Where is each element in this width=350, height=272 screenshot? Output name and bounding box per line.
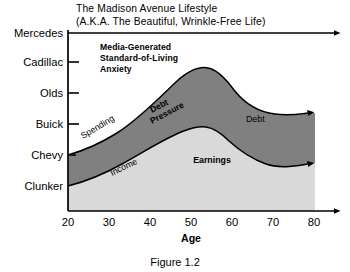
x-axis-title: Age <box>181 232 201 244</box>
y-axis-label-mercedes: Mercedes <box>14 27 64 39</box>
x-axis-label-60: 60 <box>226 216 238 228</box>
figure-caption: Figure 1.2 <box>150 256 200 268</box>
x-axis-label-40: 40 <box>144 216 156 228</box>
x-axis-label-80: 80 <box>308 216 320 228</box>
x-axis-label-70: 70 <box>267 216 279 228</box>
earnings-area-label: Earnings <box>193 155 231 165</box>
figure-container: Mercedes Cadillac Olds Buick Chevy Clunk… <box>0 0 350 272</box>
y-axis-label-cadillac: Cadillac <box>23 56 63 68</box>
y-axis-label-olds: Olds <box>40 87 63 99</box>
x-axis-label-20: 20 <box>62 216 74 228</box>
anxiety-note-line3: Anxiety <box>100 64 132 74</box>
x-axis-label-30: 30 <box>103 216 115 228</box>
anxiety-note-line1: Media-Generated <box>100 42 171 52</box>
y-axis-label-chevy: Chevy <box>31 149 63 161</box>
x-axis-label-50: 50 <box>185 216 197 228</box>
debt-area-label: Debt <box>246 114 265 124</box>
chart-title-line2: (A.K.A. The Beautiful, Wrinkle-Free Life… <box>76 16 265 27</box>
chart-title-line1: The Madison Avenue Lifestyle <box>76 3 218 14</box>
y-axis-label-buick: Buick <box>36 118 64 130</box>
y-axis-label-clunker: Clunker <box>24 180 63 192</box>
madison-avenue-lifestyle-chart: Mercedes Cadillac Olds Buick Chevy Clunk… <box>0 0 350 272</box>
anxiety-note-line2: Standard-of-Living <box>100 53 178 63</box>
